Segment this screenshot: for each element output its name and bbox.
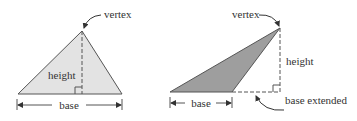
vertex-label: vertex — [232, 8, 260, 20]
right-triangle-figure: height base vertex base extended — [170, 8, 347, 110]
vertex-arrow — [259, 15, 279, 26]
triangle-height-diagram: height base vertex height base vertex ba… — [0, 0, 357, 121]
base-extended-arrow — [256, 96, 284, 110]
right-angle-marker — [273, 85, 280, 92]
vertex-label: vertex — [104, 8, 132, 20]
left-triangle-figure: height base vertex — [17, 8, 132, 111]
base-label: base — [191, 97, 211, 109]
base-label: base — [59, 99, 79, 111]
vertex-arrow — [84, 15, 101, 28]
obtuse-triangle — [170, 28, 280, 92]
height-label: height — [286, 55, 314, 67]
base-extended-label: base extended — [285, 94, 347, 106]
acute-triangle — [18, 31, 122, 94]
height-label: height — [48, 69, 76, 81]
